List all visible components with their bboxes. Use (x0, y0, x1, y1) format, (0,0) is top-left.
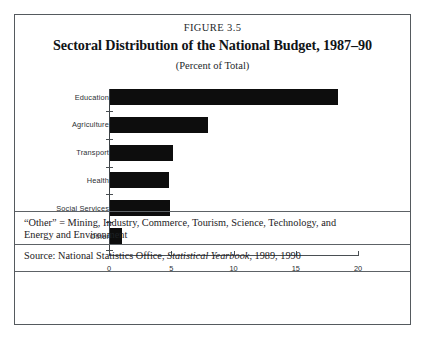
bar (110, 89, 338, 105)
category-label: Transport (15, 148, 109, 157)
source-prefix: Source: National Statistics Office, (24, 250, 167, 261)
figure-subtitle: (Percent of Total) (15, 60, 410, 71)
category-label: Agriculture (15, 120, 109, 129)
other-definition-note: “Other” = Mining, Industry, Commerce, To… (24, 217, 401, 242)
bar (110, 172, 169, 188)
category-label: Health (15, 176, 109, 185)
bar (110, 200, 170, 216)
bar (110, 145, 173, 161)
y-axis-tick (106, 194, 113, 195)
source-separator-rule (15, 244, 410, 245)
figure-frame: FIGURE 3.5 Sectoral Distribution of the … (14, 14, 411, 325)
figure-number: FIGURE 3.5 (15, 22, 410, 33)
category-label: Education (15, 93, 109, 102)
y-axis-tick (106, 167, 113, 168)
y-axis-tick (106, 139, 113, 140)
bar (110, 117, 208, 133)
figure-header: FIGURE 3.5 Sectoral Distribution of the … (15, 15, 410, 71)
y-axis-tick (106, 111, 113, 112)
source-publication-title: Statistical Yearbook (167, 250, 249, 261)
figure-title: Sectoral Distribution of the National Bu… (15, 37, 410, 54)
other-definition-line-1: “Other” = Mining, Industry, Commerce, To… (24, 217, 401, 229)
source-suffix: , 1989, 1990 (249, 250, 300, 261)
bottom-rule (15, 271, 410, 272)
source-line: Source: National Statistics Office, Stat… (24, 250, 401, 261)
other-definition-line-2: Energy and Environment (24, 229, 401, 241)
note-separator-rule (15, 211, 410, 212)
